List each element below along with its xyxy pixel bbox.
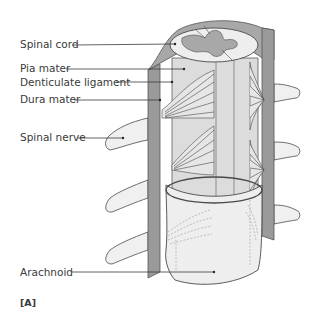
label-pia-mater: Pia mater: [20, 62, 71, 74]
label-spinal-cord: Spinal cord: [20, 38, 79, 50]
label-arachnoid: Arachnoid: [20, 266, 73, 278]
dura-mater-right: [262, 28, 274, 240]
label-denticulate-ligament: Denticulate ligament: [20, 76, 130, 88]
label-spinal-nerve: Spinal nerve: [20, 131, 86, 143]
panel-label: [A]: [20, 297, 36, 308]
dura-mater-left: [148, 64, 160, 278]
spinal-nerves-left: [106, 118, 149, 264]
label-dura-mater: Dura mater: [20, 93, 81, 105]
spinal-meninges-diagram: Spinal cord Pia mater Denticulate ligame…: [0, 0, 322, 317]
spinal-nerves-right: [274, 84, 300, 224]
